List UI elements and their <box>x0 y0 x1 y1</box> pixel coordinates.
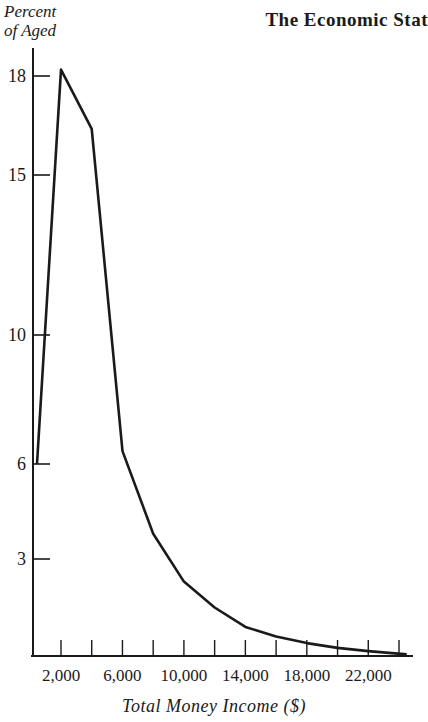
line-chart: 18151063 2,0006,00010,00014,00018,00022,… <box>0 0 428 722</box>
y-tick-label: 15 <box>8 165 26 185</box>
x-tick-label: 6,000 <box>103 666 141 685</box>
axes <box>31 48 413 657</box>
x-tick-label: 22,000 <box>345 666 392 685</box>
x-tick-label: 10,000 <box>161 666 208 685</box>
x-axis-label: Total Money Income ($) <box>0 696 428 717</box>
x-tick-label: 18,000 <box>283 666 330 685</box>
x-tick-label: 14,000 <box>222 666 269 685</box>
x-ticks: 2,0006,00010,00014,00018,00022,000 <box>42 640 399 685</box>
y-tick-label: 3 <box>17 549 26 569</box>
y-tick-label: 10 <box>8 325 26 345</box>
y-tick-label: 18 <box>8 66 26 86</box>
x-tick-label: 2,000 <box>42 666 80 685</box>
data-line <box>37 70 407 655</box>
y-ticks: 18151063 <box>8 66 50 569</box>
y-tick-label: 6 <box>17 454 26 474</box>
